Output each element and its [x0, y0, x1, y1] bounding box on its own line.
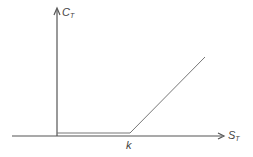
strike-label: k	[126, 140, 132, 151]
x-axis-label-sub: T	[235, 135, 239, 142]
chart-canvas	[0, 0, 253, 157]
payoff-rising-segment	[130, 57, 205, 133]
y-axis-label: CT	[62, 7, 74, 19]
x-axis-label: ST	[228, 130, 240, 142]
y-axis-label-sub: T	[70, 12, 74, 19]
y-axis-label-main: C	[62, 6, 70, 18]
payoff-diagram: CT ST k	[0, 0, 253, 157]
